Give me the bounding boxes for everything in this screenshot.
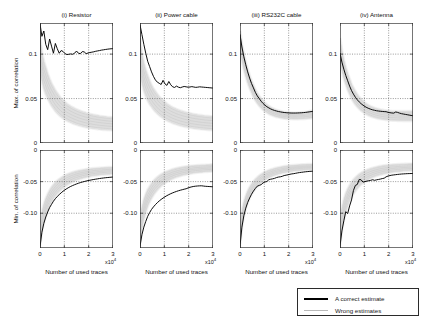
y-tick-label: 0: [110, 147, 137, 153]
y-tick-label: -0.05: [310, 179, 337, 185]
x-tick-label: 2: [181, 251, 197, 257]
panel-iii-top: [240, 23, 313, 143]
x-axis-label: Number of used traces: [126, 269, 227, 275]
panel-title-ii-top: (ii) Power cable: [130, 12, 223, 18]
y-axis-label-top: Max. of correlation: [13, 58, 19, 109]
x-tick-label: 0: [332, 251, 348, 257]
x-axis-exponent: x104: [405, 258, 416, 265]
y-tick-label: 0.05: [310, 96, 337, 102]
x-tick-label: 1: [56, 251, 72, 257]
panel-i-bottom: [40, 150, 113, 248]
legend-label-correct: A correct estimate: [335, 295, 385, 302]
x-axis-exponent-power: 4: [314, 257, 316, 262]
x-tick-label: 1: [256, 251, 272, 257]
plot-area-iii-top: [240, 23, 313, 143]
y-tick-label: 0: [310, 147, 337, 153]
y-tick-label: 0.05: [210, 96, 237, 102]
x-axis-label: Number of used traces: [226, 269, 327, 275]
x-tick-label: 2: [81, 251, 97, 257]
panel-title-iv-top: (iv) Antenna: [330, 12, 423, 18]
panel-title-i-top: (i) Resistor: [30, 12, 123, 18]
legend-label-wrong: Wrong estimates: [335, 307, 381, 314]
x-tick-label: 0: [132, 251, 148, 257]
x-axis-exponent-power: 4: [414, 257, 416, 262]
y-tick-label: 0.1: [310, 51, 337, 57]
legend-swatch-correct: [304, 298, 328, 300]
y-tick-label: -0.10: [210, 210, 237, 216]
y-tick-label: 0: [110, 140, 137, 146]
x-axis-exponent-base: x10: [105, 259, 114, 265]
x-tick-label: 0: [32, 251, 48, 257]
panel-iii-bottom: [240, 150, 313, 248]
plot-area-i-top: [40, 23, 113, 143]
plot-area-iv-top: [340, 23, 413, 143]
panel-iv-top: [340, 23, 413, 143]
y-tick-label: 0: [310, 140, 337, 146]
x-axis-label: Number of used traces: [26, 269, 127, 275]
panel-ii-bottom: [140, 150, 213, 248]
y-tick-label: 0.1: [210, 51, 237, 57]
plot-area-iii-bottom: [240, 150, 313, 248]
x-tick-label: 1: [356, 251, 372, 257]
legend-swatch-wrong: [304, 310, 328, 311]
plot-area-iv-bottom: [340, 150, 413, 248]
plot-area-ii-bottom: [140, 150, 213, 248]
x-axis-exponent: x104: [205, 258, 216, 265]
y-tick-label: 0: [10, 147, 37, 153]
y-tick-label: -0.05: [210, 179, 237, 185]
y-tick-label: 0: [210, 140, 237, 146]
panel-title-iii-top: (iii) RS232C cable: [230, 12, 323, 18]
x-axis-exponent-base: x10: [205, 259, 214, 265]
y-tick-label: 0: [210, 147, 237, 153]
x-axis-exponent-power: 4: [114, 257, 116, 262]
y-tick-label: -0.10: [310, 210, 337, 216]
plot-area-ii-top: [140, 23, 213, 143]
y-axis-label-bottom: Min. of correlation: [13, 174, 19, 223]
x-axis-exponent: x104: [105, 258, 116, 265]
x-axis-exponent-base: x10: [405, 259, 414, 265]
y-tick-label: 0.1: [110, 51, 137, 57]
figure-root: (i) Resistor00.050.1(ii) Power cable00.0…: [0, 0, 439, 324]
x-axis-label: Number of used traces: [326, 269, 427, 275]
panel-iv-bottom: [340, 150, 413, 248]
x-axis-exponent-power: 4: [214, 257, 216, 262]
panel-i-top: [40, 23, 113, 143]
y-tick-label: 0.1: [10, 51, 37, 57]
x-tick-label: 2: [281, 251, 297, 257]
y-tick-label: 0: [10, 140, 37, 146]
y-tick-label: 0.05: [110, 96, 137, 102]
plot-area-i-bottom: [40, 150, 113, 248]
y-tick-label: -0.05: [110, 179, 137, 185]
panel-ii-top: [140, 23, 213, 143]
x-tick-label: 0: [232, 251, 248, 257]
x-tick-label: 2: [381, 251, 397, 257]
x-axis-exponent: x104: [305, 258, 316, 265]
x-tick-label: 1: [156, 251, 172, 257]
y-tick-label: -0.10: [110, 210, 137, 216]
x-axis-exponent-base: x10: [305, 259, 314, 265]
